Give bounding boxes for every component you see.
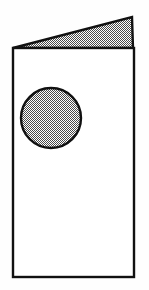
circle-cutout <box>21 88 81 148</box>
folded-card-diagram <box>0 0 149 290</box>
front-panel <box>13 48 134 277</box>
figure-canvas <box>0 0 149 290</box>
